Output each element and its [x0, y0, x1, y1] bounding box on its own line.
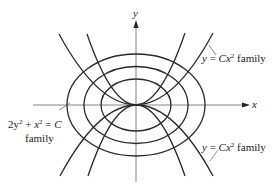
- label-eq: =: [43, 118, 55, 130]
- label-coef: C: [219, 52, 226, 64]
- y-axis-arrow-icon: [134, 20, 139, 28]
- label-coef: C: [219, 141, 226, 153]
- y-axis-label: y: [133, 8, 138, 19]
- x-axis-arrow-icon: [242, 103, 250, 108]
- orthogonal-trajectories-diagram: [0, 0, 272, 184]
- y-label-text: y: [133, 7, 138, 19]
- parabola-family-label-bottom: y = Cx2 family: [202, 142, 266, 153]
- label-c: C: [54, 118, 61, 130]
- label-suffix: family: [234, 52, 265, 64]
- ellipse-family-label-line2: family: [25, 133, 54, 144]
- parabola-family-label-top: y = Cx2 family: [202, 53, 266, 64]
- label-eq: =: [207, 52, 219, 64]
- label-family: family: [25, 132, 54, 144]
- ellipse-family-label: 2y2 + x2 = C: [8, 119, 62, 130]
- label-eq: =: [207, 141, 219, 153]
- parabola-down-narrow: [88, 105, 185, 176]
- x-label-text: x: [252, 98, 257, 110]
- label-suffix: family: [234, 141, 265, 153]
- label-2y: 2y: [8, 118, 19, 130]
- leader-ellipse: [59, 103, 70, 110]
- parabola-down-wide: [60, 105, 213, 176]
- label-plus: +: [23, 118, 35, 130]
- x-axis-label: x: [252, 99, 257, 110]
